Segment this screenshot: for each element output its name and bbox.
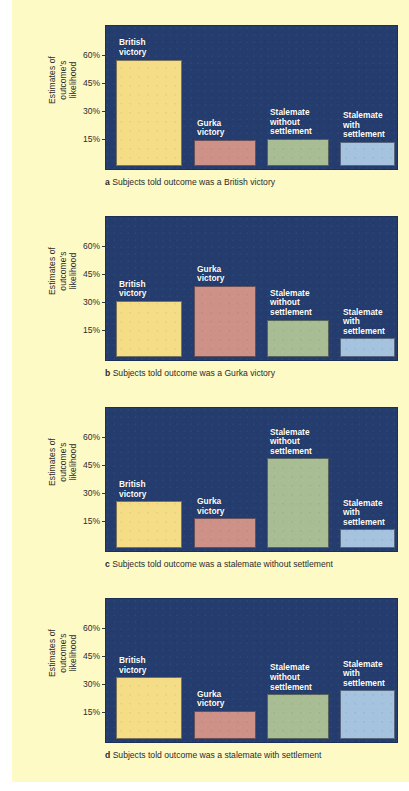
bar-label-british-victory: British victory (119, 656, 146, 675)
plot-area-d: British victoryGurka victoryStalemate wi… (105, 598, 398, 743)
bar-label-gurka-victory: Gurka victory (197, 119, 224, 138)
y-tick-label-30: 30% (83, 106, 100, 116)
y-axis-label: Estimates of outcome's likelihood (47, 211, 61, 331)
bar-c-stalemate-without-settlement (267, 458, 329, 548)
bar-c-british-victory (116, 501, 182, 548)
y-tick-label-60: 60% (83, 241, 100, 251)
y-axis-ticks: 15%30%45%60% (62, 598, 100, 743)
y-tick-label-15: 15% (83, 516, 100, 526)
y-tick-label-45: 45% (83, 269, 100, 279)
y-tick-label-30: 30% (83, 297, 100, 307)
bar-d-stalemate-with-settlement (340, 690, 395, 739)
figure-paper-background: Estimates of outcome's likelihood15%30%4… (12, 0, 409, 782)
bar-d-gurka-victory (194, 711, 256, 739)
chart-panel-c: Estimates of outcome's likelihood15%30%4… (12, 404, 409, 579)
bar-b-stalemate-without-settlement (267, 320, 329, 357)
y-axis-ticks: 15%30%45%60% (62, 216, 100, 361)
bar-b-british-victory (116, 301, 182, 357)
panel-caption-text-c: Subjects told outcome was a stalemate wi… (110, 559, 333, 569)
y-tick-label-60: 60% (83, 623, 100, 633)
plot-area-c: British victoryGurka victoryStalemate wi… (105, 407, 398, 552)
panel-caption-b: b Subjects told outcome was a Gurka vict… (105, 368, 398, 379)
y-axis-ticks: 15%30%45%60% (62, 407, 100, 552)
bar-label-gurka-victory: Gurka victory (197, 265, 224, 284)
panel-caption-a: a Subjects told outcome was a British vi… (105, 177, 398, 188)
bar-label-gurka-victory: Gurka victory (197, 497, 224, 516)
bar-label-british-victory: British victory (119, 38, 146, 57)
y-axis-label: Estimates of outcome's likelihood (47, 593, 61, 713)
bar-label-british-victory: British victory (119, 280, 146, 299)
y-tick-label-30: 30% (83, 488, 100, 498)
y-tick-label-30: 30% (83, 679, 100, 689)
y-tick-label-15: 15% (83, 325, 100, 335)
bar-a-stalemate-without-settlement (267, 139, 329, 166)
bar-label-gurka-victory: Gurka victory (197, 690, 224, 709)
bar-label-stalemate-with-settlement: Stalemate with settlement (343, 499, 385, 528)
figure-root: Estimates of outcome's likelihood15%30%4… (0, 0, 409, 791)
y-tick-label-15: 15% (83, 134, 100, 144)
chart-panel-d: Estimates of outcome's likelihood15%30%4… (12, 595, 409, 770)
bar-label-stalemate-with-settlement: Stalemate with settlement (343, 308, 385, 337)
y-tick-label-60: 60% (83, 432, 100, 442)
plot-area-b: British victoryGurka victoryStalemate wi… (105, 216, 398, 361)
bar-label-stalemate-without-settlement: Stalemate without settlement (270, 108, 312, 137)
panel-caption-text-a: Subjects told outcome was a British vict… (110, 177, 275, 187)
bar-d-british-victory (116, 677, 182, 739)
bar-a-british-victory (116, 60, 182, 166)
panel-caption-c: c Subjects told outcome was a stalemate … (105, 559, 398, 570)
bar-c-stalemate-with-settlement (340, 529, 395, 548)
bar-label-stalemate-with-settlement: Stalemate with settlement (343, 660, 385, 689)
y-tick-label-15: 15% (83, 707, 100, 717)
bar-b-gurka-victory (194, 286, 256, 357)
bar-a-stalemate-with-settlement (340, 142, 395, 166)
bar-label-stalemate-with-settlement: Stalemate with settlement (343, 111, 385, 140)
y-tick-label-60: 60% (83, 50, 100, 60)
bar-label-stalemate-without-settlement: Stalemate without settlement (270, 428, 312, 457)
y-axis-label: Estimates of outcome's likelihood (47, 402, 61, 522)
bar-label-stalemate-without-settlement: Stalemate without settlement (270, 289, 312, 318)
bar-label-british-victory: British victory (119, 480, 146, 499)
y-axis-ticks: 15%30%45%60% (62, 25, 100, 170)
plot-area-a: British victoryGurka victoryStalemate wi… (105, 25, 398, 170)
bar-b-stalemate-with-settlement (340, 338, 395, 357)
y-axis-label: Estimates of outcome's likelihood (47, 20, 61, 140)
y-tick-label-45: 45% (83, 460, 100, 470)
panel-caption-text-b: Subjects told outcome was a Gurka victor… (110, 368, 275, 378)
panel-caption-text-d: Subjects told outcome was a stalemate wi… (110, 750, 321, 760)
bar-a-gurka-victory (194, 140, 256, 166)
y-tick-label-45: 45% (83, 78, 100, 88)
bar-c-gurka-victory (194, 518, 256, 548)
chart-panel-b: Estimates of outcome's likelihood15%30%4… (12, 213, 409, 388)
bar-label-stalemate-without-settlement: Stalemate without settlement (270, 663, 312, 692)
y-tick-label-45: 45% (83, 651, 100, 661)
panel-caption-d: d Subjects told outcome was a stalemate … (105, 750, 398, 761)
chart-panel-a: Estimates of outcome's likelihood15%30%4… (12, 22, 409, 197)
bar-d-stalemate-without-settlement (267, 694, 329, 739)
